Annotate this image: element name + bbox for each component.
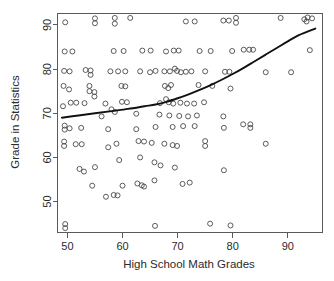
y-axis-title: Grade in Statistics [9,75,21,169]
y-tick-label: 60 [42,151,54,163]
x-tick-label: 50 [61,240,73,252]
x-tick-label: 60 [116,240,128,252]
y-tick-label: 80 [42,63,54,75]
y-tick-label: 50 [42,195,54,207]
y-tick-label: 90 [42,19,54,31]
x-tick-label: 90 [282,240,294,252]
x-tick-label: 80 [227,240,239,252]
plot-canvas: 5060708090 5060708090 High School Math G… [0,0,334,281]
x-tick-label: 70 [171,240,183,252]
x-axis-title: High School Math Grades [123,258,255,270]
scatter-plot-figure: 5060708090 5060708090 High School Math G… [0,0,334,281]
y-tick-label: 70 [42,107,54,119]
